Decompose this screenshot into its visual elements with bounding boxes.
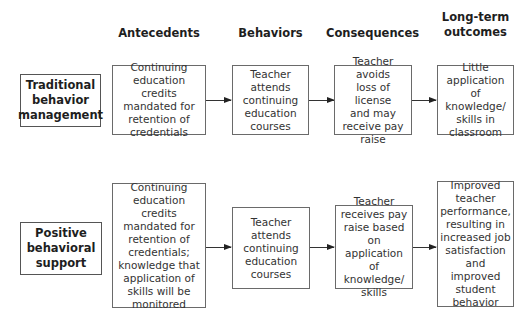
text-line: education credits [116,194,202,220]
row1-outcome-box: Little application of knowledge/ skills … [437,65,514,135]
text-line: credentials; [116,246,202,259]
text-line: retention of [116,233,202,246]
text-line: teacher [440,192,511,205]
text-line: performance, [440,205,511,218]
text-line: raise based on [339,221,409,247]
text-line: attends [243,229,298,242]
text-line: Teacher [243,216,298,229]
text-line: monitored [116,298,202,311]
text-line: continuing [243,94,298,107]
row1-consequence-box: Teacher avoids loss of license and may r… [334,65,412,135]
header-behaviors: Behaviors [232,26,309,41]
label-line: behavioral [27,241,96,256]
label-line: Traditional [18,78,103,93]
header-antecedents: Antecedents [112,26,206,41]
row-label-traditional-behavior-management: Traditional behavior management [20,74,101,127]
header-outcomes-line1: Long-term [437,10,514,25]
row2-outcome-box: Improved teacher performance, resulting … [437,181,514,307]
text-line: Little [441,61,510,74]
row1-arrow-consequence-to-outcome [412,100,436,101]
text-line: knowledge that [116,259,202,272]
text-line: Teacher [243,68,298,81]
text-line: skills in [441,113,510,126]
text-line: skills will be [116,285,202,298]
text-line: Teacher avoids [338,55,408,81]
text-line: application of [441,74,510,100]
text-line: resulting in [440,218,511,231]
header-long-term-outcomes: Long-term outcomes [437,10,514,40]
text-line: continuing [243,242,298,255]
text-line: increased job [440,231,511,244]
text-line: Teacher [339,195,409,208]
row1-arrow-behavior-to-consequence [309,100,334,101]
text-line: mandated for [116,100,202,113]
row2-arrow-behavior-to-consequence [310,247,334,248]
text-line: attends [243,81,298,94]
text-line: knowledge/ [339,273,409,286]
text-line: Improved [440,179,511,192]
text-line: application of [339,247,409,273]
text-line: and improved [440,257,511,283]
text-line: behavior [440,296,511,309]
text-line: application of [116,272,202,285]
row2-arrow-antecedent-to-behavior [206,247,231,248]
text-line: Continuing [116,181,202,194]
text-line: raise [338,133,408,146]
row1-arrow-antecedent-to-behavior [206,100,231,101]
text-line: retention of [116,113,202,126]
label-line: management [18,108,103,123]
text-line: education [243,255,298,268]
text-line: mandated for [116,220,202,233]
header-outcomes-line2: outcomes [437,25,514,40]
text-line: courses [243,120,298,133]
row1-behavior-box: Teacher attends continuing education cou… [232,65,309,135]
text-line: Continuing [116,61,202,74]
row1-antecedent-box: Continuing education credits mandated fo… [112,65,206,135]
text-line: receive pay [338,120,408,133]
row2-arrow-consequence-to-outcome [413,247,436,248]
text-line: skills [339,286,409,299]
text-line: classroom [441,126,510,139]
text-line: student [440,283,511,296]
text-line: education credits [116,74,202,100]
text-line: and may [338,107,408,120]
text-line: loss of license [338,81,408,107]
row2-consequence-box: Teacher receives pay raise based on appl… [335,205,413,289]
text-line: knowledge/ [441,100,510,113]
text-line: receives pay [339,208,409,221]
row2-behavior-box: Teacher attends continuing education cou… [232,207,310,289]
label-line: behavior [18,93,103,108]
text-line: courses [243,268,298,281]
label-line: support [27,256,96,271]
header-consequences: Consequences [326,26,412,41]
text-line: satisfaction [440,244,511,257]
label-line: Positive [27,226,96,241]
text-line: credentials [116,126,202,139]
row-label-positive-behavioral-support: Positive behavioral support [20,222,102,275]
row2-antecedent-box: Continuing education credits mandated fo… [112,183,206,308]
text-line: education [243,107,298,120]
